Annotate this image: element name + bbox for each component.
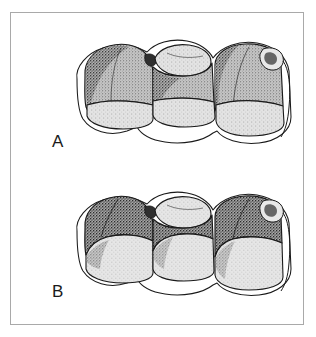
- tooth-group-a: [77, 40, 291, 143]
- molar-middle-cervical-a: [153, 98, 215, 127]
- molar-left-a: [85, 44, 157, 129]
- tooth-drawing-a: [63, 21, 303, 171]
- molar-middle-a: [153, 45, 215, 127]
- molar-right-cervical-a: [216, 101, 284, 136]
- tooth-illustration-b: [63, 173, 303, 323]
- molar-right-a: [215, 44, 290, 137]
- molar-middle-b: [153, 197, 214, 281]
- molar-left-b: [85, 196, 157, 283]
- figure-panel-b: B: [11, 173, 305, 323]
- figure-panel-a: A: [11, 21, 305, 171]
- molar-left-cervical-a: [87, 101, 153, 129]
- tooth-drawing-b: [63, 173, 303, 323]
- molar-middle-occlusal-b: [155, 197, 211, 228]
- figure-root: A: [0, 0, 316, 337]
- figure-border: A: [10, 12, 304, 325]
- tooth-illustration-a: [63, 21, 303, 171]
- molar-middle-occlusal-a: [155, 45, 211, 76]
- molar-right-b: [215, 196, 290, 291]
- tooth-group-b: [77, 192, 291, 295]
